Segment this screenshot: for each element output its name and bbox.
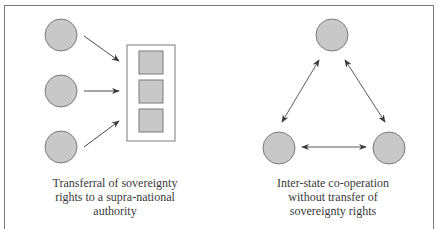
caption-line: without transfer of <box>258 190 408 204</box>
caption-line: sovereignty rights <box>258 204 408 218</box>
state-node-top <box>316 19 348 51</box>
caption-supranational: Transferral of sovereignty rights to a s… <box>40 176 190 218</box>
left-panel <box>45 19 175 163</box>
state-node-1 <box>45 19 77 51</box>
state-node-2 <box>45 75 77 107</box>
caption-interstate: Inter-state co-operation without transfe… <box>258 176 408 218</box>
authority-unit-3 <box>139 109 163 132</box>
arrow-state1-to-authority <box>84 36 119 61</box>
arrow-top-bottom-left <box>282 60 319 122</box>
right-panel <box>263 19 405 164</box>
authority-unit-2 <box>139 80 163 103</box>
caption-line: rights to a supra-national <box>40 190 190 204</box>
authority-unit-1 <box>139 51 163 74</box>
caption-line: Transferral of sovereignty <box>40 176 190 190</box>
caption-line: Inter-state co-operation <box>258 176 408 190</box>
state-node-bottom-left <box>263 132 295 164</box>
state-node-3 <box>45 131 77 163</box>
caption-line: authority <box>40 204 190 218</box>
state-node-bottom-right <box>373 132 405 164</box>
arrow-top-bottom-right <box>345 60 385 122</box>
arrow-state3-to-authority <box>84 121 119 147</box>
